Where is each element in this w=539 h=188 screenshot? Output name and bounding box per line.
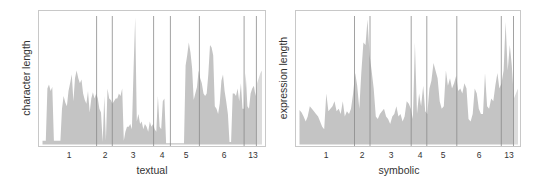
- x-tick-label: 5: [441, 150, 446, 160]
- symbolic-chart: 12345613 symbolic expression length: [270, 0, 539, 188]
- x-axis-title: symbolic: [379, 164, 420, 176]
- x-tick-label: 3: [389, 150, 394, 160]
- x-tick-labels: 12345613: [67, 150, 258, 160]
- textual-chart: 12345613 textual character length: [0, 0, 270, 188]
- x-tick-label: 13: [504, 150, 514, 160]
- x-tick-label: 5: [184, 150, 189, 160]
- area-series: [300, 20, 519, 145]
- x-tick-label: 4: [160, 150, 165, 160]
- x-tick-label: 6: [477, 150, 482, 160]
- x-tick-label: 1: [67, 150, 72, 160]
- x-tick-label: 3: [131, 150, 136, 160]
- x-tick-label: 1: [324, 150, 329, 160]
- area-layer: [43, 17, 263, 145]
- area-series: [43, 17, 263, 145]
- x-tick-label: 13: [248, 150, 258, 160]
- x-tick-label: 2: [360, 150, 365, 160]
- y-axis-title: expression length: [277, 37, 289, 119]
- x-tick-label: 6: [222, 150, 227, 160]
- area-layer: [300, 20, 519, 145]
- x-axis-title: textual: [137, 164, 168, 176]
- x-tick-label: 2: [103, 150, 108, 160]
- symbolic-chart-canvas: 12345613 symbolic expression length: [270, 0, 539, 188]
- textual-chart-canvas: 12345613 textual character length: [0, 0, 270, 188]
- x-tick-label: 4: [418, 150, 423, 160]
- y-axis-title: character length: [20, 40, 32, 115]
- x-tick-labels: 12345613: [324, 150, 514, 160]
